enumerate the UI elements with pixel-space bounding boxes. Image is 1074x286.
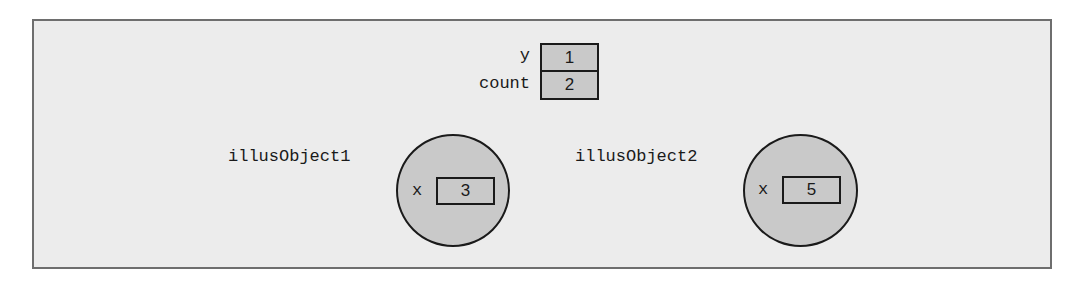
object-field-label-2: x (758, 180, 768, 200)
variable-label-y: y (430, 46, 530, 66)
variable-cell-y: 1 (540, 43, 599, 72)
object-field-label-1: x (412, 181, 422, 201)
object-label-2: illusObject2 (575, 147, 697, 167)
variable-cell-count: 2 (540, 70, 599, 100)
object-field-cell-1: 3 (436, 177, 495, 205)
object-field-cell-2: 5 (782, 176, 841, 204)
object-label-1: illusObject1 (228, 147, 350, 167)
variable-label-count: count (430, 74, 530, 94)
